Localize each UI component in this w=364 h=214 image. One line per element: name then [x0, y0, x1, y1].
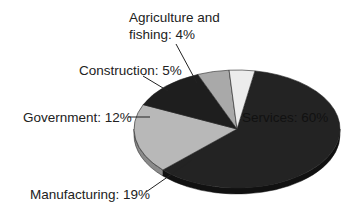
label-agriculture-line1: Agriculture and: [129, 10, 220, 25]
label-government: Government: 12%: [23, 110, 132, 125]
leader-line-construction: [143, 76, 168, 91]
label-agriculture-line2: fishing: 4%: [129, 27, 195, 42]
label-services: Services: 60%: [242, 110, 328, 125]
pie-chart: Agriculture and fishing: 4% Construction…: [0, 0, 364, 214]
label-manufacturing: Manufacturing: 19%: [30, 187, 150, 202]
pie-slices: [134, 70, 340, 188]
label-construction: Construction: 5%: [79, 63, 182, 78]
